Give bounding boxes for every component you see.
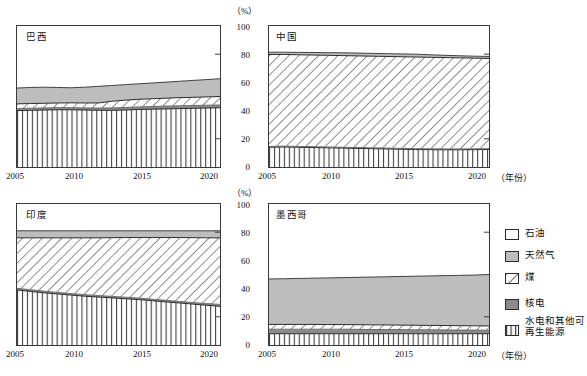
panel-title-india: 印度 — [26, 211, 47, 221]
panel-title-brazil: 巴西 — [26, 33, 47, 43]
legend-item-coal: 煤 — [505, 272, 535, 284]
x-tick-mexico-2010: 2010 — [322, 349, 340, 359]
china-area-svg — [269, 26, 489, 167]
panel-title-mexico: 墨西哥 — [276, 211, 308, 221]
x-tick-india-2005: 2005 — [6, 349, 24, 359]
y-tick-top-0: 0 — [228, 162, 250, 172]
y-axis-unit-bottom: （%） — [232, 186, 258, 199]
legend-swatch-gas-icon — [505, 251, 519, 262]
x-tick-brazil-2015: 2015 — [133, 171, 151, 181]
x-tick-china-2015: 2015 — [395, 171, 413, 181]
y-tick-bottom-0: 0 — [228, 340, 250, 350]
x-axis-unit-bottom: （年份） — [496, 349, 532, 362]
area-band-oil — [269, 26, 489, 56]
legend-item-renewables: 水电和其他可再生能源 — [505, 316, 587, 337]
y-tick-bottom-100: 100 — [228, 200, 250, 210]
area-band-gas — [17, 231, 220, 238]
y-tick-top-60: 60 — [228, 78, 250, 88]
legend-swatch-nuclear-icon — [505, 299, 519, 310]
area-band-renewables — [269, 334, 489, 345]
x-tick-brazil-2010: 2010 — [65, 171, 83, 181]
panel-brazil-plot — [16, 25, 221, 168]
legend-swatch-renewables-icon — [505, 325, 519, 336]
legend-swatch-coal-icon — [505, 273, 519, 284]
panel-title-china: 中国 — [276, 33, 297, 43]
y-tick-bottom-60: 60 — [228, 256, 250, 266]
legend-item-nuclear: 核电 — [505, 298, 545, 310]
x-tick-india-2020: 2020 — [200, 349, 218, 359]
x-tick-mexico-2005: 2005 — [258, 349, 276, 359]
x-tick-china-2005: 2005 — [258, 171, 276, 181]
legend-label-gas: 天然气 — [525, 250, 555, 261]
x-tick-brazil-2005: 2005 — [6, 171, 24, 181]
panel-india-plot — [16, 203, 221, 346]
y-tick-bottom-80: 80 — [228, 228, 250, 238]
legend-label-renewables: 水电和其他可再生能源 — [525, 316, 587, 337]
y-tick-top-20: 20 — [228, 134, 250, 144]
x-tick-china-2020: 2020 — [468, 171, 486, 181]
x-axis-unit-top: （年份） — [496, 171, 532, 184]
legend-swatch-oil-icon — [505, 229, 519, 240]
x-tick-india-2015: 2015 — [133, 349, 151, 359]
y-tick-bottom-20: 20 — [228, 312, 250, 322]
area-band-renewables — [17, 108, 220, 167]
y-axis-unit-top: （%） — [232, 4, 258, 17]
x-tick-india-2010: 2010 — [65, 349, 83, 359]
legend-item-oil: 石油 — [505, 228, 545, 240]
area-band-oil — [17, 26, 220, 88]
area-band-gas — [269, 275, 489, 326]
legend-item-gas: 天然气 — [505, 250, 555, 262]
mexico-area-svg — [269, 204, 489, 345]
chart-legend: 石油 天然气 煤 核电 水电和其他可再生能源 — [505, 228, 575, 338]
legend-label-nuclear: 核电 — [525, 298, 545, 309]
y-tick-bottom-40: 40 — [228, 284, 250, 294]
x-tick-china-2010: 2010 — [322, 171, 340, 181]
area-band-oil — [17, 204, 220, 231]
brazil-area-svg — [17, 26, 220, 167]
y-tick-top-80: 80 — [228, 50, 250, 60]
area-band-coal — [269, 54, 489, 148]
y-tick-top-40: 40 — [228, 106, 250, 116]
y-tick-top-100: 100 — [228, 22, 250, 32]
x-tick-brazil-2020: 2020 — [200, 171, 218, 181]
panel-china-plot — [268, 25, 490, 168]
legend-label-coal: 煤 — [525, 272, 535, 283]
panel-mexico-plot — [268, 203, 490, 346]
legend-label-oil: 石油 — [525, 228, 545, 239]
x-tick-mexico-2020: 2020 — [468, 349, 486, 359]
x-tick-mexico-2015: 2015 — [395, 349, 413, 359]
india-area-svg — [17, 204, 220, 345]
